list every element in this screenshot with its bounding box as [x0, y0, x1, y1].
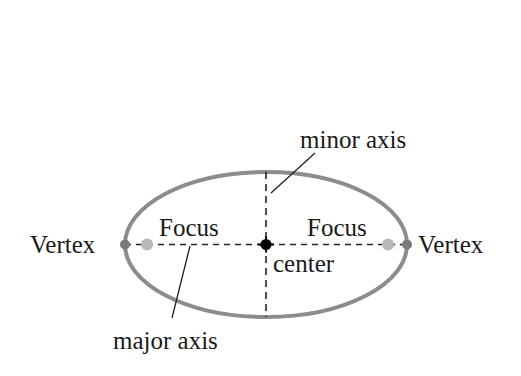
focus-right-label: Focus [307, 214, 367, 241]
minor-axis-label: minor axis [300, 126, 406, 153]
major-axis-label: major axis [113, 327, 218, 354]
ellipse-diagram: minor axis Focus Focus Vertex Vertex cen… [0, 0, 521, 376]
focus-right-dot [382, 239, 394, 251]
center-label: center [273, 250, 335, 277]
major-axis-leader [172, 246, 190, 318]
vertex-right-label: Vertex [418, 231, 484, 258]
focus-left-dot [141, 239, 153, 251]
vertex-right-dot [402, 240, 412, 250]
vertex-left-label: Vertex [30, 231, 96, 258]
focus-left-label: Focus [159, 214, 219, 241]
vertex-left-dot [120, 240, 130, 250]
